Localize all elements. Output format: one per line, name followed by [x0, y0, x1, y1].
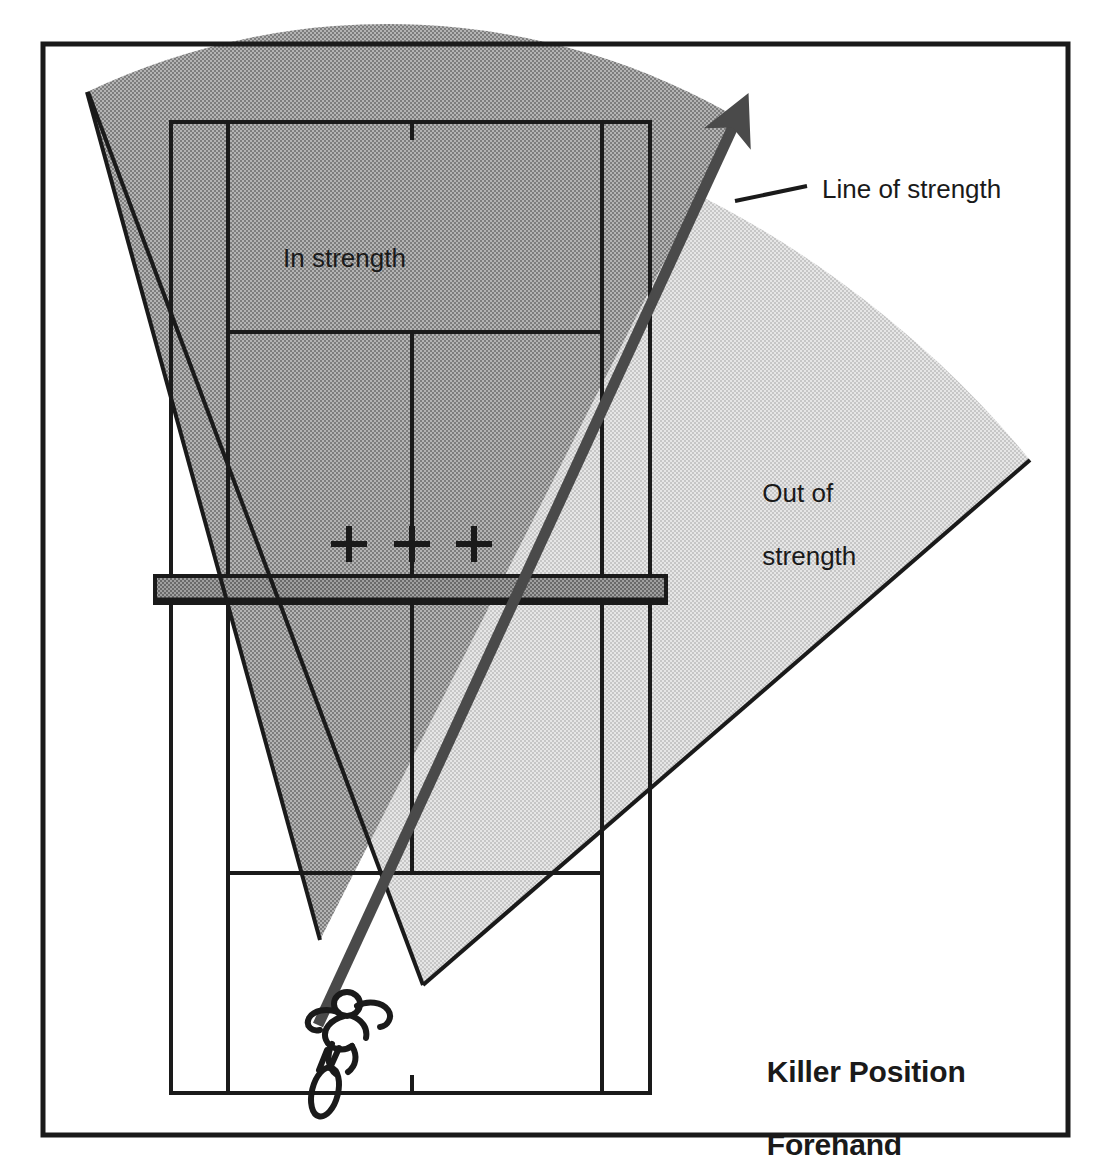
diagram-title-line2: Forehand	[767, 1128, 902, 1161]
diagram-title-line1: Killer Position	[767, 1055, 966, 1088]
out-of-strength-label-line2: strength	[762, 541, 856, 571]
out-of-strength-label-line1: Out of	[762, 478, 833, 508]
in-strength-label: In strength	[283, 243, 406, 275]
diagram-canvas: In strength Out of strength Line of stre…	[0, 0, 1100, 1163]
net	[155, 576, 666, 603]
player-figure-with-racket	[306, 992, 390, 1119]
line-of-strength-leader	[735, 186, 807, 201]
line-of-strength-label: Line of strength	[822, 174, 1001, 206]
